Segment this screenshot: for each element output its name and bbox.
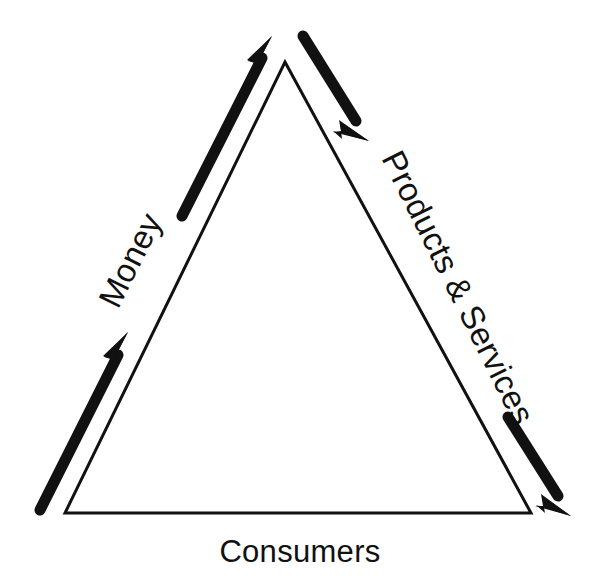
arrow-products-upper bbox=[303, 36, 369, 141]
arrow-products-lower bbox=[508, 417, 571, 516]
label-consumers: Consumers bbox=[219, 534, 380, 569]
triangle-flow-diagram: Money Products & Services Consumers bbox=[0, 0, 600, 583]
label-money: Money bbox=[91, 207, 169, 313]
arrow-money-lower bbox=[40, 332, 128, 510]
arrow-money-upper bbox=[182, 36, 272, 216]
diagram-canvas: Money Products & Services Consumers bbox=[0, 0, 600, 583]
label-products-services: Products & Services bbox=[375, 145, 542, 431]
